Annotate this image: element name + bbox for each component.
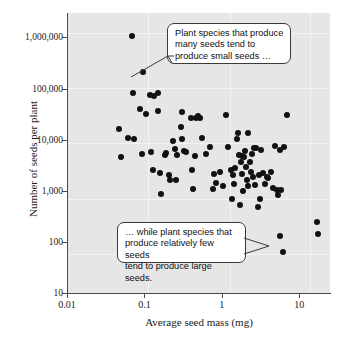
- data-point: [231, 181, 237, 187]
- data-point: [315, 231, 321, 237]
- y-axis-tick-label: 10: [54, 288, 64, 298]
- annotation-tail-top: [130, 48, 175, 78]
- data-point: [129, 33, 135, 39]
- data-point: [174, 152, 180, 158]
- data-point: [173, 177, 179, 183]
- data-point: [252, 182, 258, 188]
- annotation-tail-bottom: [243, 233, 281, 259]
- data-point: [199, 135, 205, 141]
- data-point: [190, 186, 196, 192]
- x-axis-tick-label: 0.1: [138, 299, 151, 310]
- x-axis-tick: [67, 293, 68, 298]
- data-point: [197, 115, 203, 121]
- y-axis-line: [67, 13, 68, 294]
- gridline-horizontal: [67, 88, 330, 89]
- x-axis-tick-label: 10: [294, 299, 304, 310]
- data-point: [247, 159, 253, 165]
- gridline-vertical: [310, 13, 311, 293]
- data-point: [275, 192, 281, 198]
- data-point: [203, 151, 209, 157]
- data-point: [281, 144, 287, 150]
- annotation-callout-bottom: … while plant species that produce relat…: [117, 222, 246, 263]
- data-point: [241, 154, 247, 160]
- data-point: [245, 130, 251, 136]
- data-point: [137, 106, 143, 112]
- data-point: [192, 153, 198, 159]
- data-point: [179, 109, 185, 115]
- data-point: [210, 186, 216, 192]
- x-axis-tick: [144, 293, 145, 298]
- data-point: [131, 136, 137, 142]
- data-point: [255, 204, 261, 210]
- data-point: [189, 167, 195, 173]
- data-point: [143, 111, 149, 117]
- data-point: [155, 108, 161, 114]
- data-point: [213, 180, 219, 186]
- annotation-callout-top: Plant species that produce many seeds te…: [167, 23, 291, 64]
- data-point: [150, 167, 156, 173]
- data-point: [220, 183, 226, 189]
- data-point: [249, 151, 255, 157]
- data-point: [116, 126, 122, 132]
- data-point: [242, 148, 248, 154]
- data-point: [179, 136, 185, 142]
- data-point: [314, 219, 320, 225]
- data-point: [284, 112, 290, 118]
- data-point: [217, 169, 223, 175]
- y-axis-tick-label: 10,000: [37, 135, 63, 145]
- data-point: [130, 90, 136, 96]
- y-axis-title: Number of seeds per plant: [27, 64, 39, 254]
- data-point: [223, 112, 229, 118]
- data-point: [178, 124, 184, 130]
- data-point: [278, 187, 284, 193]
- data-point: [265, 175, 271, 181]
- data-point: [235, 130, 241, 136]
- seed-mass-scatter-figure: 101001,00010,000100,0001,000,000 0.010.1…: [0, 0, 348, 339]
- data-point: [245, 183, 251, 189]
- data-point: [183, 149, 189, 155]
- data-point: [229, 196, 235, 202]
- data-point: [240, 188, 246, 194]
- data-point: [157, 170, 163, 176]
- data-point: [148, 149, 154, 155]
- gridline-horizontal: [67, 199, 330, 200]
- data-point: [232, 165, 238, 171]
- y-axis-tick-label: 1,000,000: [25, 32, 63, 42]
- data-point: [262, 181, 268, 187]
- y-axis-tick-label: 100: [49, 237, 63, 247]
- x-axis-tick-label: 0.01: [58, 299, 76, 310]
- data-point: [151, 93, 157, 99]
- data-point: [268, 169, 274, 175]
- x-axis-tick: [299, 293, 300, 298]
- data-point: [257, 196, 263, 202]
- data-point: [225, 144, 231, 150]
- x-axis-line: [67, 293, 331, 294]
- y-axis-tick-label: 1,000: [42, 186, 63, 196]
- data-point: [118, 154, 124, 160]
- data-point: [158, 191, 164, 197]
- data-point: [237, 202, 243, 208]
- data-point: [139, 151, 145, 157]
- data-point: [250, 174, 256, 180]
- data-point: [234, 136, 240, 142]
- x-axis-title: Average seed mass (mg): [67, 316, 331, 328]
- x-axis-tick-label: 1: [219, 299, 224, 310]
- data-point: [207, 144, 213, 150]
- x-axis-tick: [222, 293, 223, 298]
- data-point: [258, 147, 264, 153]
- gridline-horizontal: [67, 143, 330, 144]
- data-point: [172, 146, 178, 152]
- data-point: [163, 150, 169, 156]
- data-point: [230, 172, 236, 178]
